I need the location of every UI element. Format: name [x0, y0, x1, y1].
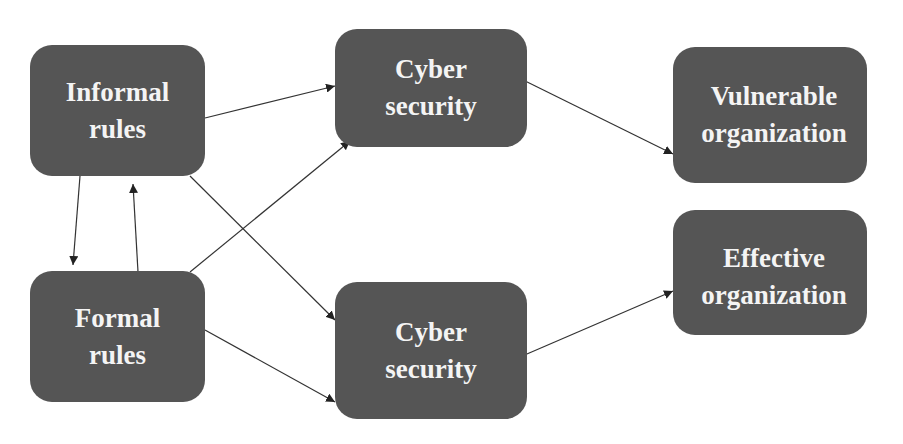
node-label-line1: Cyber — [395, 51, 467, 88]
node-label-line1: Effective — [723, 240, 825, 277]
node-label-line1: Informal — [66, 74, 170, 111]
node-label-line1: Vulnerable — [711, 78, 838, 115]
node-label-line2: rules — [89, 111, 146, 148]
node-label-line2: security — [385, 351, 476, 388]
arrow-informal-to-cyber-top — [205, 86, 335, 118]
node-label-line2: organization — [701, 115, 847, 152]
node-cyber-security-bottom: Cyber security — [335, 282, 527, 419]
node-label-line1: Cyber — [395, 314, 467, 351]
arrow-cyber-top-to-vulnerable — [513, 75, 673, 154]
arrow-formal-to-cyber-top — [190, 141, 350, 272]
node-label-line2: organization — [701, 277, 847, 314]
node-formal-rules: Formal rules — [30, 271, 205, 402]
arrow-formal-to-informal — [133, 184, 138, 272]
arrow-informal-to-formal — [73, 176, 80, 265]
arrow-formal-to-cyber-bottom — [205, 330, 335, 402]
arrow-informal-to-cyber-bottom — [190, 176, 335, 320]
node-label-line2: rules — [89, 337, 146, 374]
node-effective-organization: Effective organization — [673, 210, 867, 335]
node-label-line1: Formal — [75, 300, 160, 337]
node-cyber-security-top: Cyber security — [335, 29, 527, 147]
node-vulnerable-organization: Vulnerable organization — [673, 47, 867, 183]
node-informal-rules: Informal rules — [30, 45, 205, 176]
node-label-line2: security — [385, 88, 476, 125]
arrow-cyber-bottom-to-effective — [513, 291, 673, 360]
